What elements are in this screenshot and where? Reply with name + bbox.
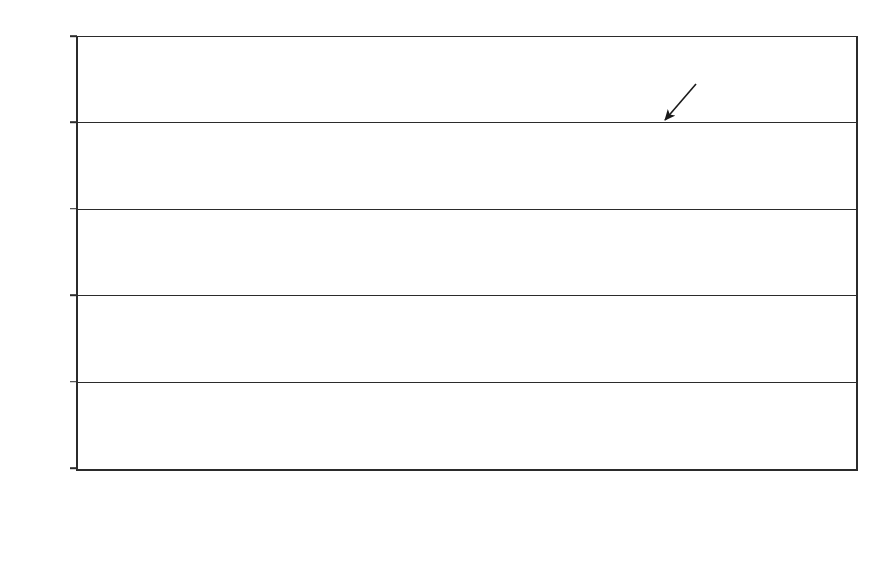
x-axis-line	[76, 469, 858, 471]
gridline-800	[76, 122, 858, 123]
y-tick-mark-0	[70, 467, 77, 469]
y-tick-mark-1000	[70, 35, 77, 37]
gridline-400	[76, 295, 858, 296]
x-axis-labels	[76, 482, 858, 530]
y-tick-mark-800	[70, 122, 77, 124]
y-tick-mark-600	[70, 208, 77, 210]
gridline-1000	[76, 36, 858, 37]
y-tick-mark-200	[70, 381, 77, 383]
chart-root	[0, 0, 887, 586]
y-tick-mark-400	[70, 294, 77, 296]
plot-area	[76, 36, 858, 470]
annotation-arrow-icon	[652, 76, 712, 136]
plot-right-border	[856, 36, 858, 470]
gridline-200	[76, 382, 858, 383]
y-axis-line	[76, 36, 78, 470]
gridline-600	[76, 209, 858, 210]
legend	[0, 543, 887, 571]
